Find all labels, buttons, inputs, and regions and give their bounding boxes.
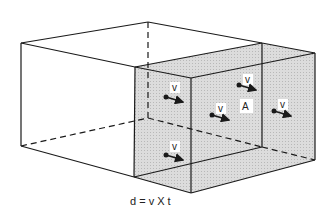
formula-caption: d = v X t: [130, 195, 171, 207]
vector-label: v: [245, 74, 250, 85]
volume-flow-diagram: v v v v v A d = v X t: [0, 0, 333, 212]
vector-label: v: [280, 99, 285, 110]
vector-label: v: [218, 103, 223, 114]
vector-label: v: [172, 141, 177, 152]
area-label: A: [242, 101, 249, 112]
diagram-canvas: v v v v v A d = v X t: [0, 0, 333, 212]
vector-label: v: [172, 82, 177, 93]
